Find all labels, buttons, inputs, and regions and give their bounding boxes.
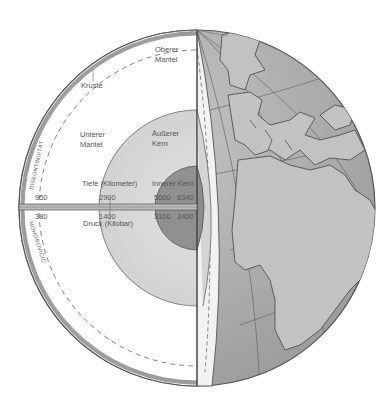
label-outer-core-1: Äußerer — [152, 129, 180, 138]
label-inner-core: Innerer Kern — [152, 179, 194, 188]
earth-cross-section-svg: Oberer Mantel Kruste Unterer Mantel Äuße… — [0, 0, 390, 402]
depth-2900: 2900 — [99, 193, 116, 202]
pressure-1400: 1400 — [99, 212, 116, 221]
label-lower-mantle-1: Unterer — [80, 130, 106, 139]
label-depth-axis: Tiefe (Kilometer) — [82, 179, 138, 188]
label-crust: Kruste — [81, 81, 103, 90]
depth-pressure-axis — [19, 204, 197, 210]
label-upper-mantle-2: Mantel — [155, 55, 178, 64]
depth-6340: 6340 — [177, 193, 194, 202]
depth-950: 950 — [35, 193, 48, 202]
pressure-380: 380 — [35, 212, 48, 221]
depth-5000: 5000 — [154, 193, 171, 202]
pressure-3100: 3100 — [154, 212, 171, 221]
label-outer-core-2: Kern — [152, 139, 168, 148]
earth-diagram: Oberer Mantel Kruste Unterer Mantel Äuße… — [0, 0, 390, 402]
label-upper-mantle-1: Oberer — [155, 45, 179, 54]
pressure-3400: 3400 — [177, 212, 194, 221]
label-lower-mantle-2: Mantel — [80, 140, 103, 149]
